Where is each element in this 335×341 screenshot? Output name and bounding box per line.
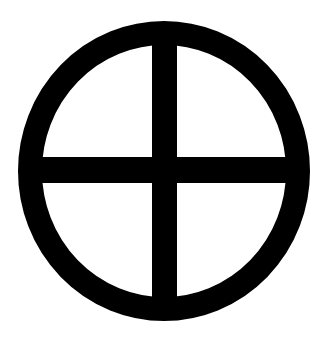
horizontal-bar bbox=[22, 157, 306, 183]
sun-cross-icon bbox=[0, 0, 335, 341]
